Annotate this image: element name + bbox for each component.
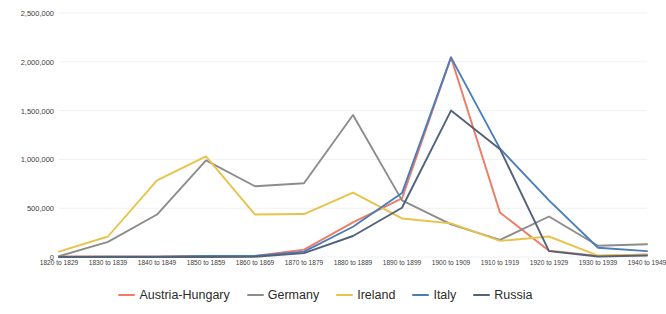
legend-item-label: Italy: [433, 288, 456, 302]
y-tick-label: 2,000,000: [21, 57, 54, 66]
legend-item-label: Ireland: [357, 288, 395, 302]
x-tick-label: 1890 to 1899: [383, 259, 422, 266]
x-axis: 1820 to 18291830 to 18391840 to 18491850…: [59, 259, 647, 273]
legend-item[interactable]: Italy: [412, 288, 456, 302]
y-tick-label: 2,500,000: [21, 9, 54, 18]
legend-color-swatch: [247, 294, 264, 296]
legend-color-swatch: [473, 294, 490, 296]
y-tick-label: 500,000: [27, 204, 54, 213]
legend-item-label: Russia: [494, 288, 532, 302]
x-tick-label: 1830 to 1839: [89, 259, 128, 266]
x-tick-label: 1930 to 1939: [579, 259, 618, 266]
chart-legend: Austria-HungaryGermanyIrelandItalyRussia: [0, 283, 651, 307]
x-tick-label: 1840 to 1849: [138, 259, 177, 266]
legend-color-swatch: [336, 294, 353, 296]
x-tick-label: 1910 to 1919: [481, 259, 520, 266]
x-tick-label: 1820 to 1829: [40, 259, 79, 266]
series-lines: [59, 13, 647, 257]
legend-item[interactable]: Russia: [473, 288, 532, 302]
legend-color-swatch: [412, 294, 429, 296]
legend-item[interactable]: Germany: [247, 288, 319, 302]
x-tick-label: 1870 to 1879: [285, 259, 324, 266]
y-tick-label: 1,000,000: [21, 155, 54, 164]
legend-item[interactable]: Austria-Hungary: [118, 288, 229, 302]
x-tick-label: 1900 to 1909: [432, 259, 471, 266]
x-tick-label: 1880 to 1889: [334, 259, 373, 266]
series-line: [59, 111, 647, 257]
x-tick-label: 1860 to 1869: [236, 259, 275, 266]
x-tick-label: 1850 to 1859: [187, 259, 226, 266]
x-tick-label: 1940 to 1949: [628, 259, 666, 266]
x-tick-label: 1920 to 1929: [530, 259, 569, 266]
series-line: [59, 156, 647, 255]
legend-item-label: Germany: [268, 288, 319, 302]
plot-area: [59, 13, 647, 257]
legend-item[interactable]: Ireland: [336, 288, 395, 302]
legend-color-swatch: [118, 294, 135, 296]
legend-item-label: Austria-Hungary: [139, 288, 229, 302]
series-line: [59, 57, 647, 257]
y-tick-label: 1,500,000: [21, 106, 54, 115]
y-axis: 2,500,0002,000,0001,500,0001,000,000500,…: [0, 13, 54, 257]
